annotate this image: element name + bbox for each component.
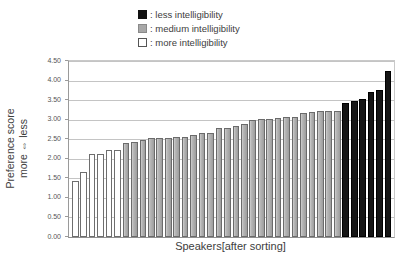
bar xyxy=(224,128,231,238)
y-axis-tick-label: 0.00 xyxy=(47,233,61,240)
bar xyxy=(317,111,324,237)
bar xyxy=(351,101,358,237)
bar xyxy=(385,71,392,237)
bar xyxy=(309,112,316,237)
y-axis-title: Preference score more ⇔ less xyxy=(4,60,30,236)
y-axis-tick-label: 4.50 xyxy=(47,57,61,64)
bar xyxy=(216,128,223,237)
bar xyxy=(131,142,138,237)
bar xyxy=(376,90,383,237)
x-axis-title: Speakers[after sorting] xyxy=(68,240,393,252)
bar xyxy=(199,133,206,237)
bar xyxy=(342,103,349,237)
y-axis-tick-label: 2.00 xyxy=(47,154,61,161)
bar xyxy=(359,99,366,237)
bar xyxy=(72,181,79,237)
plot-area xyxy=(68,60,395,238)
bar-series xyxy=(69,61,394,237)
bar xyxy=(165,138,172,237)
bar xyxy=(89,154,96,237)
bar-chart: 0.000.501.001.502.002.503.003.504.004.50… xyxy=(0,0,408,266)
bar xyxy=(249,120,256,237)
bar xyxy=(106,150,113,237)
bar xyxy=(368,92,375,237)
y-axis-tick-label: 3.50 xyxy=(47,96,61,103)
bar xyxy=(300,113,307,237)
y-axis-tick-label: 1.00 xyxy=(47,193,61,200)
y-axis-tick-label: 4.00 xyxy=(47,76,61,83)
bar xyxy=(190,135,197,237)
bar xyxy=(173,137,180,237)
bar xyxy=(241,124,248,237)
bar xyxy=(334,111,341,237)
bar xyxy=(148,138,155,237)
bar xyxy=(266,119,273,238)
bar xyxy=(275,118,282,237)
y-axis-title-line2: more ⇔ less xyxy=(17,119,29,178)
bar xyxy=(80,172,87,237)
y-axis-tick-label: 2.50 xyxy=(47,135,61,142)
bar xyxy=(233,126,240,237)
bar xyxy=(283,117,290,237)
bar xyxy=(123,143,130,237)
y-axis-tick-label: 0.50 xyxy=(47,213,61,220)
bar xyxy=(207,133,214,237)
bar xyxy=(97,154,104,237)
y-axis-title-line1: Preference score xyxy=(5,108,17,188)
bar xyxy=(182,137,189,237)
y-axis-tick-label: 3.00 xyxy=(47,115,61,122)
bar xyxy=(258,119,265,237)
bar xyxy=(114,150,121,237)
bar xyxy=(140,140,147,237)
y-axis-tick-label: 1.50 xyxy=(47,174,61,181)
bar xyxy=(156,138,163,237)
bar xyxy=(325,111,332,237)
bar xyxy=(292,117,299,237)
